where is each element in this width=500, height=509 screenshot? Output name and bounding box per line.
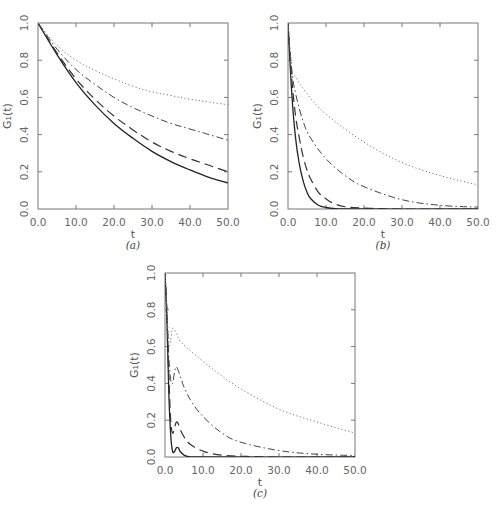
- y-tick-label: 1.0: [145, 265, 157, 282]
- y-tick-label: 0.4: [18, 126, 30, 143]
- y-tick-label: 0.2: [18, 163, 30, 180]
- y-tick-label: 0.2: [268, 163, 280, 180]
- x-tick-label: 40.0: [305, 464, 328, 476]
- y-tick-label: 0.4: [145, 375, 157, 392]
- y-tick-label: 0.6: [145, 338, 157, 355]
- panel-caption: (a): [126, 239, 140, 251]
- x-tick-label: 0.0: [157, 464, 174, 476]
- chart-panel-a: 0.010.020.030.040.050.00.00.20.40.60.81.…: [1, 15, 240, 251]
- plot-frame: [38, 23, 228, 209]
- y-axis-label: G₁(t): [251, 103, 264, 129]
- x-tick-label: 20.0: [102, 216, 125, 228]
- y-tick-label: 0.8: [18, 52, 30, 69]
- plot-frame: [288, 23, 478, 209]
- y-tick-label: 0.6: [268, 89, 280, 106]
- x-tick-label: 0.0: [30, 216, 47, 228]
- x-tick-label: 10.0: [191, 464, 214, 476]
- panel-caption: (b): [376, 239, 391, 251]
- series-solid: [165, 273, 355, 457]
- y-axis-label: G₁(t): [1, 103, 14, 129]
- x-tick-label: 10.0: [64, 216, 87, 228]
- series-dashed: [38, 23, 228, 172]
- y-tick-label: 1.0: [268, 15, 280, 32]
- x-tick-label: 20.0: [352, 216, 375, 228]
- y-tick-label: 0.2: [145, 412, 157, 429]
- series-solid: [38, 23, 228, 183]
- x-tick-label: 40.0: [178, 216, 201, 228]
- series-dash-dot: [38, 23, 228, 140]
- series-dash-dot: [165, 273, 355, 456]
- x-tick-label: 0.0: [280, 216, 297, 228]
- y-tick-label: 0.0: [145, 449, 157, 466]
- plot-frame: [165, 273, 355, 457]
- series-dash-dot: [288, 23, 478, 207]
- y-tick-label: 0.8: [145, 301, 157, 318]
- y-tick-label: 0.6: [18, 89, 30, 106]
- x-tick-label: 40.0: [428, 216, 451, 228]
- series-dotted: [165, 273, 355, 433]
- chart-panel-c: 0.010.020.030.040.050.00.00.20.40.60.81.…: [128, 265, 367, 499]
- figure: 0.010.020.030.040.050.00.00.20.40.60.81.…: [0, 0, 500, 509]
- x-tick-label: 30.0: [390, 216, 413, 228]
- chart-panel-b: 0.010.020.030.040.050.00.00.20.40.60.81.…: [251, 15, 490, 251]
- series-dashed: [288, 23, 478, 209]
- y-tick-label: 0.4: [268, 126, 280, 143]
- x-tick-label: 50.0: [216, 216, 239, 228]
- x-tick-label: 20.0: [229, 464, 252, 476]
- y-tick-label: 0.8: [268, 52, 280, 69]
- x-tick-label: 50.0: [466, 216, 489, 228]
- y-tick-label: 0.0: [18, 201, 30, 218]
- x-tick-label: 10.0: [314, 216, 337, 228]
- x-tick-label: 50.0: [343, 464, 366, 476]
- series-dashed: [165, 273, 355, 457]
- y-tick-label: 1.0: [18, 15, 30, 32]
- series-solid: [288, 23, 478, 209]
- y-axis-label: G₁(t): [128, 352, 141, 378]
- y-tick-label: 0.0: [268, 201, 280, 218]
- panel-caption: (c): [253, 487, 267, 499]
- x-tick-label: 30.0: [140, 216, 163, 228]
- series-dotted: [288, 23, 478, 185]
- x-tick-label: 30.0: [267, 464, 290, 476]
- series-dotted: [38, 23, 228, 105]
